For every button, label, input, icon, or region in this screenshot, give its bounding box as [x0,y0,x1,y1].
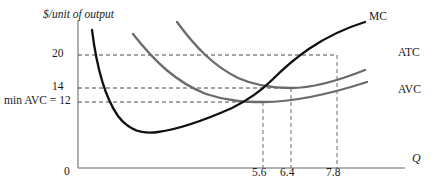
y-tick-14: 14 [52,81,64,93]
origin-label: 0 [64,166,70,178]
x-tick-7-8: 7.8 [326,167,340,179]
x-tick-6-4: 6.4 [280,167,294,179]
series-label-mc: MC [369,11,387,23]
y-tick-20: 20 [52,48,64,60]
y-tick-min-avc: min AVC = 12 [4,95,71,107]
cost-curves-chart: $/unit of output 20 14 min AVC = 12 0 5.… [0,0,434,188]
y-axis-title: $/unit of output [43,9,114,21]
series-label-atc: ATC [398,47,420,59]
mc-curve [92,22,365,133]
series-label-avc: AVC [398,84,421,96]
x-axis-title: Q [412,152,421,164]
avc-curve [133,34,367,102]
x-tick-5-6: 5.6 [252,167,266,179]
